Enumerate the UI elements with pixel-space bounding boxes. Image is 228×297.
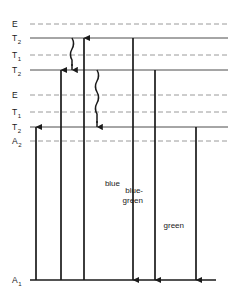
level-label-level-t1-2: T1 [12, 107, 22, 118]
level-label-subscript: 1 [18, 56, 22, 62]
level-label-level-e-1: E [12, 19, 18, 29]
nonradiative-arrow-nonradiative-1 [70, 38, 73, 66]
level-label-level-a1: A1 [12, 275, 22, 286]
level-label-subscript: 2 [18, 142, 22, 148]
level-label-subscript: 2 [18, 71, 22, 77]
emission-arrows-group [133, 38, 196, 280]
level-label-level-t2-1: T2 [12, 33, 22, 44]
emission-label-line: blue- [125, 186, 143, 195]
emission-label-line: green [164, 221, 184, 230]
level-lines-group [30, 24, 228, 280]
level-label-subscript: 1 [18, 113, 22, 119]
emission-label-line: green [123, 196, 143, 205]
emission-labels-group: blueblue-greengreen [105, 179, 184, 230]
level-label-level-e-2: E [12, 90, 18, 100]
level-label-level-t2-3: T2 [12, 122, 22, 133]
emission-label-emission-blue: blue [105, 179, 121, 188]
energy-level-diagram: ET2T1T2ET1T2A2A1 blueblue-greengreen [0, 0, 228, 297]
excitation-arrows-group [36, 38, 84, 280]
level-label-level-t1-1: T1 [12, 50, 22, 61]
diagram-canvas: ET2T1T2ET1T2A2A1 blueblue-greengreen [0, 0, 228, 297]
level-label-subscript: 1 [18, 281, 22, 287]
level-label-subscript: 2 [18, 39, 22, 45]
level-label-level-a2: A2 [12, 136, 22, 147]
level-label-subscript: 2 [18, 128, 22, 134]
emission-label-emission-green: green [164, 221, 184, 230]
emission-label-line: blue [105, 179, 121, 188]
level-label-level-t2-2: T2 [12, 65, 22, 76]
nonradiative-arrow-nonradiative-2 [95, 70, 98, 123]
emission-label-emission-blue-green: blue-green [123, 186, 144, 205]
level-labels-group: ET2T1T2ET1T2A2A1 [12, 19, 22, 286]
